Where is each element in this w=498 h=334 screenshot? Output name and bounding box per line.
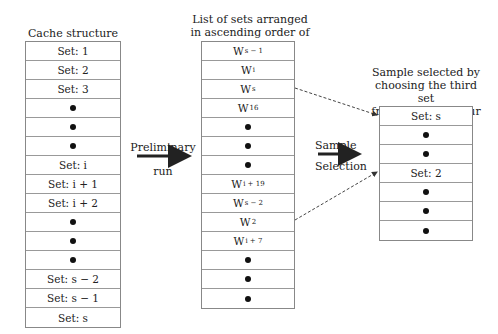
arrows-overlay (0, 0, 498, 334)
dashed-arrow-ws-to-set-s (295, 88, 377, 115)
dashed-arrow-w2-to-set-2 (295, 172, 377, 220)
